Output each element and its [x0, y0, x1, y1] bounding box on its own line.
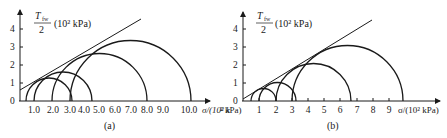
x-tick-label: 7.0 [125, 105, 137, 115]
y-tick-label: 0 [10, 96, 15, 106]
x-tick-label: 6 [338, 105, 343, 115]
y-axis-label-a: T fw 2 (10² kPa) [34, 10, 91, 35]
mohr-circle-figure: 0 1 2 3 4 1.0 2.0 3.0 4.0 5.0 6.0 7.0 8.… [0, 0, 447, 138]
x-tick-label: 2 [274, 105, 279, 115]
y-tick-label: 1 [233, 78, 238, 88]
x-tick-label: 9 [387, 105, 392, 115]
x-tick-label: 2.0 [47, 105, 59, 115]
x-tick-label: 7 [355, 105, 360, 115]
mohr-circles-a [26, 41, 191, 101]
y-tick-label: 3 [233, 42, 238, 52]
y-tick-label: 0 [233, 96, 238, 106]
x-tick-labels-a: 1.0 2.0 3.0 4.0 5.0 6.0 7.0 8.0 9.0 10.0 [28, 105, 198, 115]
x-tick-label: 1 [257, 105, 262, 115]
ylabel-denominator: 2 [261, 24, 266, 35]
ylabel-unit: (10² kPa) [54, 18, 91, 30]
ylabel-T: T [35, 10, 42, 21]
panel-label-a: (a) [104, 120, 115, 132]
x-tick-label: 5 [322, 105, 327, 115]
x-tick-label: 1.0 [28, 105, 40, 115]
ylabel-denominator: 2 [39, 24, 44, 35]
ylabel-subscript: fw [42, 16, 49, 22]
panel-a: 0 1 2 3 4 1.0 2.0 3.0 4.0 5.0 6.0 7.0 8.… [10, 10, 231, 132]
y-axis-label-b: T fw 2 (10² kPa) [256, 10, 312, 35]
x-tick-label: 10.0 [181, 105, 198, 115]
x-axis-label-b: σ/(10² kPa) [398, 105, 439, 115]
x-tick-label: 8.0 [141, 105, 153, 115]
x-tick-label: 4.0 [78, 105, 90, 115]
x-tick-label: 3 [290, 105, 295, 115]
x-tick-label: 8 [371, 105, 376, 115]
x-tick-label: 6.0 [109, 105, 121, 115]
y-tick-label: 4 [10, 24, 15, 34]
x-tick-label: 4 [306, 105, 311, 115]
y-tick-label: 3 [10, 42, 15, 52]
x-tick-label: 5.0 [93, 105, 105, 115]
mohr-circles-b [251, 46, 403, 102]
x-tick-labels-b: 1 2 3 4 5 6 7 8 9 [257, 105, 392, 115]
y-tick-label: 4 [233, 24, 238, 34]
panel-b: ² kPa) 0 1 2 3 4 1 2 3 4 [220, 10, 440, 132]
y-tick-label: 2 [10, 60, 15, 70]
x-tick-label: 3.0 [64, 105, 76, 115]
ylabel-subscript: fw [264, 16, 271, 22]
panel-label-b: (b) [327, 120, 339, 132]
x-tick-label: 9.0 [157, 105, 169, 115]
y-tick-label: 1 [10, 78, 15, 88]
ylabel-unit: (10² kPa) [275, 18, 312, 30]
cut-axis-label: ² kPa) [220, 105, 241, 115]
y-tick-label: 2 [233, 60, 238, 70]
ylabel-T: T [257, 10, 264, 21]
